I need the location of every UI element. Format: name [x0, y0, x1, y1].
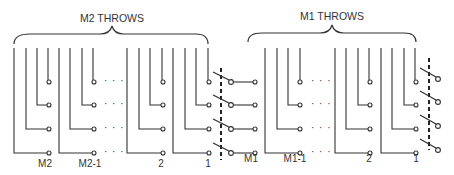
m2-group-1	[173, 48, 211, 155]
m2-group-m2-1	[59, 48, 96, 155]
m1-group-m1-1	[265, 48, 302, 155]
m1-ganged-switch	[420, 58, 440, 152]
m1-group-1	[381, 48, 418, 155]
label-m1-1: M1-1	[284, 153, 307, 164]
m2-group-m2	[14, 48, 51, 155]
m1-throws-title: M1 THROWS	[300, 10, 364, 22]
label-2-left: 2	[158, 158, 164, 169]
m2-ganged-switch	[213, 68, 233, 160]
m2-group-2	[127, 48, 165, 155]
m1-throws-brace	[248, 25, 416, 42]
label-m2: M2	[38, 158, 52, 169]
m2-throws-brace	[14, 26, 208, 44]
ellipsis: · · ·	[104, 75, 125, 86]
label-1-right: 1	[413, 153, 419, 164]
m1-group-2	[335, 48, 372, 155]
label-m2-1: M2-1	[79, 158, 102, 169]
label-m1: M1	[244, 153, 258, 164]
label-1-left: 1	[205, 158, 211, 169]
ellipsis: · · ·	[104, 98, 125, 109]
ellipsis: · · ·	[104, 146, 125, 157]
label-2-right: 2	[366, 153, 372, 164]
ellipsis: · · ·	[311, 98, 332, 109]
m1-group-m1	[233, 80, 257, 155]
ellipsis: · · ·	[311, 146, 332, 157]
ellipsis: · · ·	[104, 122, 125, 133]
m2-throws-title: M2 THROWS	[80, 12, 144, 24]
switch-matrix-diagram: M2 THROWS M1 THROWS · · · · · · · · · · …	[0, 0, 454, 175]
ellipsis: · · ·	[311, 75, 332, 86]
ellipsis: · · ·	[311, 122, 332, 133]
